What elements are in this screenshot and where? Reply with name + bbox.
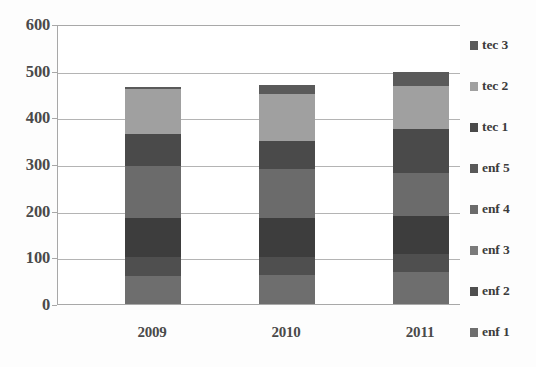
bar-segment-enf-2[interactable] xyxy=(393,254,449,273)
legend-swatch-icon xyxy=(470,287,478,296)
x-axis-tick-label: 2009 xyxy=(107,324,197,341)
legend-item-tec-2[interactable]: tec 2 xyxy=(470,79,508,93)
legend-label: enf 1 xyxy=(482,325,510,339)
legend-swatch-icon xyxy=(470,123,478,132)
legend-swatch-icon xyxy=(470,164,478,173)
bar-segment-tec-1[interactable] xyxy=(125,134,181,150)
y-axis: 0100200300400500600 xyxy=(0,25,50,305)
legend-item-enf-2[interactable]: enf 2 xyxy=(470,284,510,298)
stacked-bar-chart: 0100200300400500600 200920102011 tec 3te… xyxy=(0,0,536,367)
legend-swatch-icon xyxy=(470,41,478,50)
y-axis-tick-label: 400 xyxy=(2,110,50,127)
bar-segment-enf-4[interactable] xyxy=(393,173,449,216)
legend-item-enf-4[interactable]: enf 4 xyxy=(470,202,510,216)
bar-segment-enf-3[interactable] xyxy=(259,218,315,258)
x-axis-tick-label: 2010 xyxy=(241,324,331,341)
legend-item-enf-3[interactable]: enf 3 xyxy=(470,243,510,257)
bar-2010[interactable] xyxy=(259,85,315,304)
legend-item-enf-5[interactable]: enf 5 xyxy=(470,161,510,175)
legend-swatch-icon xyxy=(470,246,478,255)
chart-legend: tec 3tec 2tec 1enf 5enf 4enf 3enf 2enf 1 xyxy=(470,38,536,356)
y-axis-tick-mark xyxy=(52,305,57,306)
y-axis-tick-label: 100 xyxy=(2,250,50,267)
bar-segment-enf-2[interactable] xyxy=(125,257,181,276)
bar-segment-enf-1[interactable] xyxy=(259,275,315,304)
y-axis-tick-label: 200 xyxy=(2,203,50,220)
legend-swatch-icon xyxy=(470,205,478,214)
bar-segment-enf-2[interactable] xyxy=(259,257,315,275)
bar-segment-enf-1[interactable] xyxy=(393,272,449,304)
bar-segment-tec-2[interactable] xyxy=(393,86,449,129)
y-axis-tick-label: 0 xyxy=(2,297,50,314)
legend-swatch-icon xyxy=(470,328,478,337)
legend-label: tec 1 xyxy=(482,120,508,134)
bar-segment-enf-4[interactable] xyxy=(259,169,315,218)
bar-segment-enf-3[interactable] xyxy=(393,216,449,253)
legend-label: tec 2 xyxy=(482,79,508,93)
bar-segment-tec-1[interactable] xyxy=(393,129,449,151)
bar-segment-tec-3[interactable] xyxy=(393,72,449,86)
y-axis-tick-label: 600 xyxy=(2,17,50,34)
legend-swatch-icon xyxy=(470,82,478,91)
legend-item-enf-1[interactable]: enf 1 xyxy=(470,325,510,339)
legend-label: enf 5 xyxy=(482,161,510,175)
bar-segment-enf-5[interactable] xyxy=(259,155,315,169)
x-axis-tick-label: 2011 xyxy=(375,324,465,341)
bar-segment-enf-1[interactable] xyxy=(125,276,181,304)
bar-segment-enf-4[interactable] xyxy=(125,166,181,217)
legend-item-tec-3[interactable]: tec 3 xyxy=(470,38,508,52)
bar-segment-tec-1[interactable] xyxy=(259,141,315,155)
bar-segment-enf-3[interactable] xyxy=(125,218,181,258)
legend-label: tec 3 xyxy=(482,38,508,52)
bar-segment-tec-3[interactable] xyxy=(259,85,315,94)
bar-2011[interactable] xyxy=(393,72,449,304)
y-axis-tick-label: 300 xyxy=(2,157,50,174)
bar-segment-enf-5[interactable] xyxy=(125,150,181,166)
bar-segment-enf-5[interactable] xyxy=(393,151,449,173)
plot-area xyxy=(57,25,460,305)
legend-label: enf 2 xyxy=(482,284,510,298)
y-axis-tick-label: 500 xyxy=(2,63,50,80)
bar-segment-tec-2[interactable] xyxy=(259,94,315,141)
bar-segment-tec-2[interactable] xyxy=(125,89,181,133)
legend-label: enf 4 xyxy=(482,202,510,216)
legend-item-tec-1[interactable]: tec 1 xyxy=(470,120,508,134)
x-axis: 200920102011 xyxy=(57,324,460,348)
bar-2009[interactable] xyxy=(125,87,181,304)
legend-label: enf 3 xyxy=(482,243,510,257)
